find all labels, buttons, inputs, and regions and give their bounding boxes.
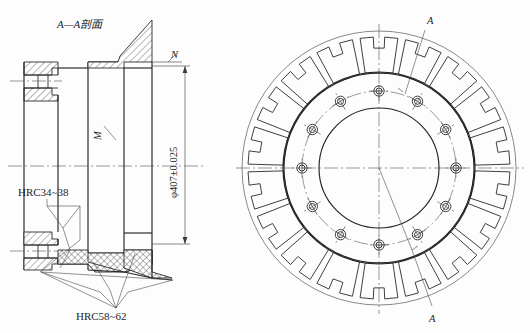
front-view-group: A A <box>236 15 524 324</box>
bolt-hole <box>432 193 459 220</box>
bolt-hole-crosshair <box>327 88 354 115</box>
bolt-hole-crosshair <box>432 116 459 143</box>
label-M-leader <box>104 126 116 140</box>
outer-segment <box>281 232 328 280</box>
engineering-drawing-canvas: A—A剖面 <box>0 0 530 333</box>
section-line-top-tick <box>398 88 403 92</box>
section-mark-A-top: A <box>426 15 434 26</box>
bolt-hole-crosshair <box>404 221 431 248</box>
note-hard-leader-b <box>116 280 173 308</box>
outer-segment <box>470 127 510 165</box>
bolt-hole-crosshair <box>299 116 326 143</box>
outer-segment <box>470 171 510 209</box>
note-hrc-hard: HRC58~62 <box>76 310 127 322</box>
section-view-group: A—A剖面 <box>8 18 205 322</box>
note-soft-leader-a <box>47 206 80 228</box>
note-hrc-soft: HRC34~38 <box>18 186 69 198</box>
section-mark-A-bottom: A <box>428 313 436 324</box>
left-flange-lower-hatch-2 <box>24 258 58 270</box>
bolt-hole-crosshair <box>327 221 354 248</box>
bolt-hole-crosshair <box>404 88 431 115</box>
section-line-center-radial <box>379 168 412 250</box>
section-line-bottom-tick <box>412 246 418 250</box>
section-line-bottom <box>412 250 432 306</box>
bolt-hole <box>299 116 326 143</box>
outer-segment <box>248 171 288 209</box>
drawing-sheet: A—A剖面 <box>0 0 530 333</box>
section-view-title: A—A剖面 <box>56 18 104 30</box>
dimension-diameter-text: φ407±0.025 <box>168 147 179 198</box>
left-flange-lower-hatch <box>24 232 58 245</box>
outer-segment <box>429 57 476 105</box>
left-flange-upper-hatch <box>24 62 58 75</box>
section-line-top <box>405 30 425 94</box>
bolt-hole-crosshair <box>432 193 459 220</box>
outer-segment <box>281 57 328 105</box>
bolt-hole <box>299 193 326 220</box>
bolt-hole <box>432 116 459 143</box>
bolt-hole-crosshair <box>299 193 326 220</box>
label-M: M <box>92 130 103 141</box>
note-hard-leader-a <box>41 272 116 308</box>
bolt-hole <box>327 221 354 248</box>
left-flange-upper-hatch-2 <box>24 88 58 101</box>
outer-segment <box>429 232 476 280</box>
bolt-hole <box>404 88 431 115</box>
bolt-hole <box>327 88 354 115</box>
bolt-hole <box>404 221 431 248</box>
outer-segment <box>248 127 288 165</box>
